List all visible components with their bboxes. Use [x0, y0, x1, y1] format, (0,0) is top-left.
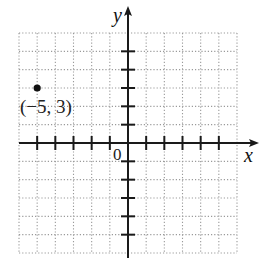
x-axis-label: x — [243, 144, 253, 166]
data-point — [34, 84, 41, 91]
plotted-points — [34, 84, 41, 91]
origin-label: 0 — [113, 145, 122, 164]
point-label: (−5, 3) — [20, 96, 72, 118]
y-axis-label: y — [111, 4, 122, 27]
coordinate-plane: y x 0 (−5, 3) — [0, 0, 260, 263]
